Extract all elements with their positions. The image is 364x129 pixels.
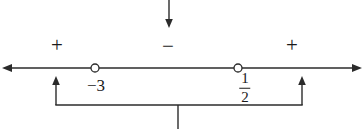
- bracket-right-arrowhead-up: [298, 76, 306, 85]
- critical-point-marker-neg-three: [91, 64, 99, 72]
- sign-chart-canvas: [0, 0, 364, 129]
- middle-region-pointer-icon: [165, 0, 173, 28]
- number-line-right-arrowhead: [352, 64, 362, 72]
- critical-point-label-one-half: 1 2: [239, 71, 251, 106]
- sign-chart-figure: + − + −3 1 2: [0, 0, 364, 129]
- fraction-denominator: 2: [239, 89, 251, 106]
- number-line-left-arrowhead: [2, 64, 12, 72]
- pointer-arrowhead-down: [165, 19, 173, 28]
- bracket-left-arrowhead-up: [52, 76, 60, 85]
- sign-label-middle-region: −: [162, 36, 174, 57]
- sign-label-right-region: +: [286, 35, 298, 56]
- fraction-numerator: 1: [239, 71, 251, 88]
- number-line: [2, 64, 362, 72]
- sign-label-left-region: +: [51, 35, 63, 56]
- critical-point-label-neg-three: −3: [87, 77, 105, 94]
